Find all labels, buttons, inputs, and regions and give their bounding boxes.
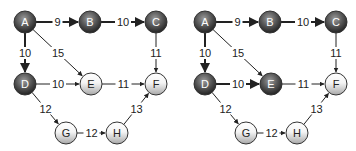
edge-c-f: 11 [328, 33, 344, 72]
node-label: F [333, 78, 340, 90]
edge-weight-label: 10 [297, 16, 309, 28]
edge-b-c: 10 [281, 16, 324, 28]
node-label: F [153, 78, 160, 90]
edge-weight-label: 13 [130, 103, 142, 115]
node-label: G [62, 127, 71, 139]
node-label: D [201, 78, 209, 90]
node-label: D [21, 78, 29, 90]
node-d: D [194, 73, 216, 95]
node-f: F [325, 73, 347, 95]
edge-weight-label: 12 [39, 103, 51, 115]
graph-diagram-canvas: 9101015111011121213ABCDEFGH9101015111011… [0, 0, 356, 151]
node-label: B [86, 16, 93, 28]
node-h: H [106, 122, 128, 144]
node-label: A [201, 16, 209, 28]
edge-weight-label: 9 [54, 16, 60, 28]
edge-weight-label: 13 [310, 103, 322, 115]
edge-weight-label: 12 [265, 127, 277, 139]
edge-weight-label: 11 [330, 47, 341, 59]
node-label: C [152, 16, 160, 28]
node-g: G [55, 122, 77, 144]
edge-weight-label: 10 [19, 47, 31, 59]
edge-weight-label: 11 [150, 47, 161, 59]
edge-a-e: 15 [213, 30, 262, 76]
node-label: H [293, 127, 301, 139]
edge-weight-label: 11 [118, 78, 129, 90]
graph-diagram: 9101015111011121213ABCDEFGH9101015111011… [0, 0, 356, 151]
edge-weight-label: 9 [234, 16, 240, 28]
node-b: B [259, 11, 281, 33]
edge-g-h: 12 [77, 127, 105, 139]
graph-right: 9101015111011121213ABCDEFGH [194, 11, 347, 144]
node-a: A [14, 11, 36, 33]
edge-weight-label: 12 [219, 103, 231, 115]
edge-weight-label: 15 [52, 47, 64, 59]
edge-a-d: 10 [197, 33, 213, 72]
node-g: G [235, 122, 257, 144]
node-c: C [145, 11, 167, 33]
graph-left: 9101015111011121213ABCDEFGH [14, 11, 167, 144]
edge-weight-label: 10 [52, 78, 64, 90]
edge-e-f: 11 [102, 78, 144, 90]
edge-weight-label: 10 [232, 78, 244, 90]
edge-h-f: 13 [124, 93, 149, 124]
edge-weight-label: 15 [232, 47, 244, 59]
node-label: E [267, 78, 274, 90]
node-c: C [325, 11, 347, 33]
node-label: G [242, 127, 251, 139]
edge-h-f: 13 [304, 93, 329, 124]
edge-b-c: 10 [101, 16, 144, 28]
edge-d-e: 10 [216, 78, 259, 90]
edge-weight-label: 10 [117, 16, 129, 28]
edge-c-f: 11 [148, 33, 164, 72]
graphs-layer: 9101015111011121213ABCDEFGH9101015111011… [14, 11, 347, 144]
node-b: B [79, 11, 101, 33]
edge-d-g: 12 [212, 92, 238, 123]
edge-a-b: 9 [216, 16, 258, 28]
edge-a-b: 9 [36, 16, 78, 28]
node-e: E [260, 73, 282, 95]
edge-e-f: 11 [282, 78, 324, 90]
edge-d-g: 12 [32, 92, 58, 123]
node-f: F [145, 73, 167, 95]
node-e: E [80, 73, 102, 95]
node-h: H [286, 122, 308, 144]
edge-d-e: 10 [36, 78, 79, 90]
edge-weight-label: 10 [199, 47, 211, 59]
edge-weight-label: 12 [85, 127, 97, 139]
node-label: C [332, 16, 340, 28]
node-d: D [14, 73, 36, 95]
node-a: A [194, 11, 216, 33]
node-label: H [113, 127, 121, 139]
edge-a-d: 10 [17, 33, 33, 72]
node-label: B [266, 16, 273, 28]
edge-a-e: 15 [33, 30, 82, 76]
edge-g-h: 12 [257, 127, 285, 139]
node-label: A [21, 16, 29, 28]
edge-weight-label: 11 [298, 78, 309, 90]
node-label: E [87, 78, 94, 90]
